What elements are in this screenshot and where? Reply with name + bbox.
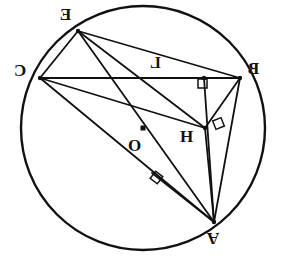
vertex-point-E: [76, 29, 80, 33]
right-angle-at-L: [198, 79, 207, 88]
vertex-point-A: [212, 220, 216, 224]
vertex-label-text-O: O: [128, 136, 141, 155]
vertex-point-C: [38, 76, 42, 80]
segment-H-A: [205, 128, 214, 222]
vertex-label-text-C: C: [14, 62, 26, 79]
vertex-label-O: O: [128, 137, 141, 154]
segment-C-H: [40, 78, 205, 128]
vertex-point-L: [202, 76, 206, 80]
vertex-label-text-H: H: [180, 127, 193, 146]
geometry-figure: ECBAHOL: [0, 0, 285, 266]
vertex-label-text-E: E: [60, 6, 71, 23]
geometry-canvas: [0, 0, 285, 266]
vertex-label-E: E: [60, 6, 71, 23]
vertex-label-text-L: L: [150, 55, 161, 71]
vertex-label-text-A: A: [207, 230, 219, 247]
right-angle-at-H: [213, 118, 225, 130]
center-point-O: [141, 126, 146, 131]
vertex-label-text-B: B: [248, 60, 259, 77]
vertex-point-B: [238, 76, 242, 80]
vertex-label-B: B: [248, 60, 259, 77]
vertex-label-H: H: [180, 128, 193, 145]
segments-layer: [40, 31, 240, 222]
vertex-label-A: A: [207, 230, 219, 247]
segment-E-H: [78, 31, 205, 128]
segment-A-foot-on-CA: [152, 173, 214, 222]
vertex-label-L: L: [150, 55, 161, 71]
vertex-point-H: [203, 126, 207, 130]
segment-B-A: [214, 78, 240, 222]
vertex-label-C: C: [14, 62, 26, 79]
